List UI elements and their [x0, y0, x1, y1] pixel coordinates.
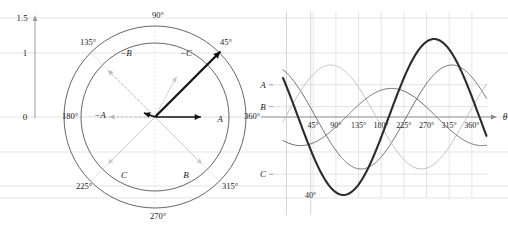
plot-x-tick-360deg: 360°	[464, 121, 479, 130]
polar-angle-label-45deg: 45°	[220, 37, 232, 47]
phasor-C	[108, 117, 155, 164]
polar-phasor-label-neg-A: −A	[94, 110, 106, 120]
plot-x-tick-90deg: 90°	[330, 121, 341, 130]
polar-angle-label-360deg: 360°	[244, 111, 260, 121]
polar-angle-label-180deg: 180°	[62, 111, 78, 121]
polar-angle-label-135deg: 135°	[80, 37, 96, 47]
figure-canvas: 1.510360°45°90°135°180°225°270°315°A−AB−…	[0, 0, 508, 230]
figure-root: 1.510360°45°90°135°180°225°270°315°A−AB−…	[0, 0, 508, 230]
phasor-A-head	[195, 114, 201, 120]
plot-level-label-C: C	[260, 169, 267, 179]
plot-level-label-A: A	[259, 80, 266, 90]
plot-x-tick-135deg: 135°	[351, 121, 366, 130]
plot-x-tick-45deg: 45°	[308, 121, 319, 130]
polar-phasor-label-neg-B: −B	[120, 48, 132, 58]
polar-angle-label-270deg: 270°	[150, 211, 166, 221]
phasor-neg-C	[155, 76, 177, 117]
left-y-tick-1: 1	[23, 48, 28, 58]
polar-phasor-label-neg-C: −C	[180, 48, 193, 58]
polar-phasor-label-C: C	[121, 170, 128, 180]
polar-angle-label-225deg: 225°	[76, 181, 92, 191]
phasor-B	[155, 117, 202, 164]
left-y-tick-1_5: 1.5	[16, 13, 28, 23]
phasor-neg-A-head	[109, 115, 114, 120]
top-mask	[0, 0, 508, 10]
phasor-resultant	[155, 52, 220, 117]
left-y-tick-0: 0	[23, 112, 28, 122]
bottom-mask	[0, 220, 508, 230]
polar-angle-label-90deg: 90°	[152, 10, 164, 20]
polar-angle-label-315deg: 315°	[222, 181, 238, 191]
theta-axis-arrow	[491, 115, 497, 120]
polar-phasor-label-A: A	[216, 114, 223, 124]
theta-axis-label: θ	[503, 112, 508, 122]
plot-annotation-0: 40°	[305, 191, 316, 200]
plot-x-tick-270deg: 270°	[419, 121, 434, 130]
polar-phasor-label-B: B	[183, 170, 189, 180]
plot-level-label-B: B	[260, 102, 266, 112]
